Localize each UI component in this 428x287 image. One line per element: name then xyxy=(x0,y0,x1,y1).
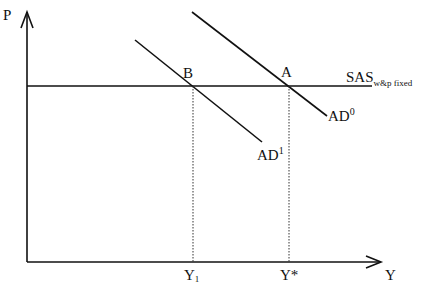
ystar-tick-label: Y* xyxy=(280,267,298,283)
y1-tick-subscript: 1 xyxy=(195,274,200,284)
sas-curve: SASw&p fixed xyxy=(27,69,413,88)
ad0-curve: AD0 xyxy=(192,12,355,124)
ad0-label-main: AD xyxy=(328,108,350,124)
y1-tick-main: Y xyxy=(184,267,195,283)
sas-label: SASw&p fixed xyxy=(346,69,413,88)
y-axis: P xyxy=(3,7,33,262)
point-b-label: B xyxy=(183,65,193,81)
ad1-label-superscript: 1 xyxy=(279,145,284,156)
ad-sas-diagram: P Y SASw&p fixed AD1 AD0 B A Y1 Y* xyxy=(0,0,428,287)
y-axis-label: P xyxy=(3,7,11,23)
sas-label-subscript: w&p fixed xyxy=(374,78,413,88)
y1-tick-label: Y1 xyxy=(184,267,199,284)
ad1-label-main: AD xyxy=(257,147,279,163)
x-axis-label: Y xyxy=(385,267,396,283)
sas-label-main: SAS xyxy=(346,69,374,85)
x-axis: Y xyxy=(27,256,396,283)
ad0-label: AD0 xyxy=(328,106,355,124)
ad0-label-superscript: 0 xyxy=(350,106,355,117)
point-a-label: A xyxy=(281,64,292,80)
ad1-label: AD1 xyxy=(257,145,284,163)
ad1-curve: AD1 xyxy=(135,40,284,163)
